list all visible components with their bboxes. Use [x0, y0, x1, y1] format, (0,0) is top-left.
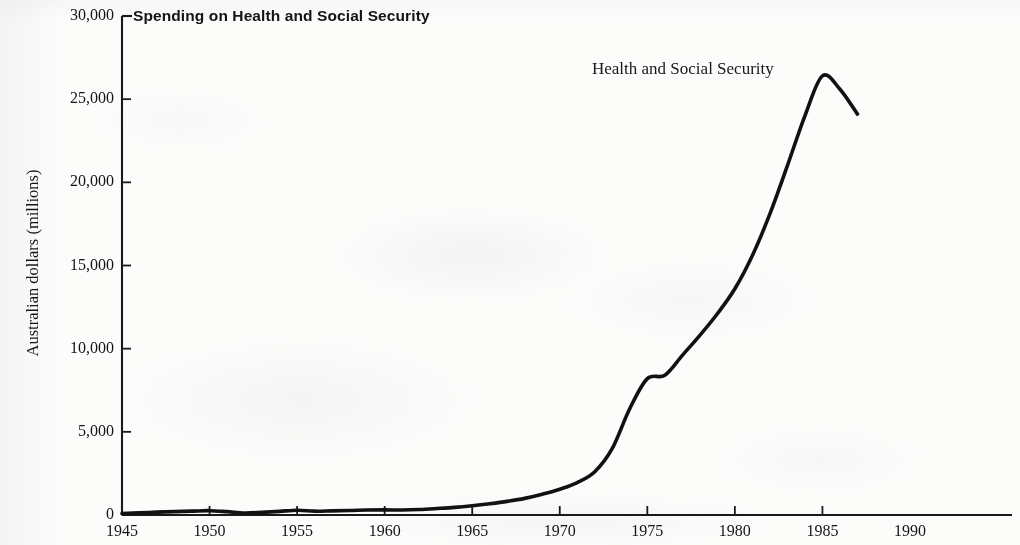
- x-tick-label: 1975: [612, 522, 682, 540]
- x-tick-label: 1990: [875, 522, 945, 540]
- y-tick-label: 15,000: [24, 256, 114, 274]
- x-tick-label: 1980: [700, 522, 770, 540]
- y-tick-label: 25,000: [24, 89, 114, 107]
- x-tick-label: 1970: [525, 522, 595, 540]
- x-tick-label: 1955: [262, 522, 332, 540]
- y-tick-label: 0: [24, 505, 114, 523]
- y-tick-label: 10,000: [24, 339, 114, 357]
- y-tick-label: 20,000: [24, 172, 114, 190]
- y-tick-label: 30,000: [24, 6, 114, 24]
- x-tick-label: 1965: [437, 522, 507, 540]
- chart-plot-area: [0, 0, 1020, 545]
- x-tick-label: 1945: [87, 522, 157, 540]
- y-tick-label: 5,000: [24, 422, 114, 440]
- chart-title: Spending on Health and Social Security: [133, 7, 430, 25]
- x-tick-label: 1960: [350, 522, 420, 540]
- y-axis-ticks: [122, 16, 131, 432]
- x-tick-label: 1985: [787, 522, 857, 540]
- chart-figure: Spending on Health and Social Security H…: [0, 0, 1020, 545]
- x-tick-label: 1950: [175, 522, 245, 540]
- series-line-health-and-social-security: [122, 75, 857, 514]
- series-annotation-label: Health and Social Security: [592, 59, 774, 79]
